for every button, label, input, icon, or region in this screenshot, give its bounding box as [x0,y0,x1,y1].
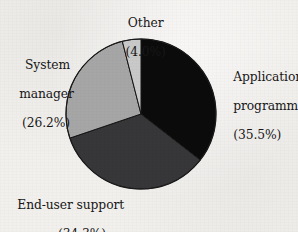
slice-label-end-user-support: End-user support (34.3%) [2,184,124,232]
slice-label-other: Other (4.0%) [101,2,175,74]
pie-chart-figure: Other (4.0%) Application programmer (35.… [0,0,298,232]
slice-label-application-programmer-percent: (35.5%) [233,128,281,142]
slice-label-end-user-support-name: End-user support [17,198,124,212]
slice-label-other-name: Other [128,16,164,30]
slice-label-application-programmer: Application programmer (35.5%) [218,56,298,157]
slice-label-system-manager-name-1: System [25,58,70,72]
slice-label-system-manager-name-2: manager [19,87,74,101]
slice-label-other-percent: (4.0%) [126,45,166,59]
slice-label-end-user-support-percent: (34.3%) [2,227,124,232]
slice-label-system-manager: System manager (26.2%) [4,44,70,145]
slice-label-application-programmer-name-1: Application [233,70,298,84]
slice-label-system-manager-percent: (26.2%) [22,116,70,130]
slice-label-application-programmer-name-2: programmer [233,99,298,113]
